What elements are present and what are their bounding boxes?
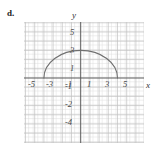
x-tick-label-1: 1: [87, 80, 91, 89]
y-tick-label-3: 3: [70, 46, 74, 55]
y-tick-label-neg4: -4: [65, 118, 72, 127]
x-tick-label-neg3: -3: [46, 80, 53, 89]
y-axis-label: y: [72, 10, 76, 20]
part-label: d.: [7, 8, 14, 18]
x-tick-label-3: 3: [105, 80, 109, 89]
y-tick-label-1: 1: [70, 64, 74, 73]
figure-panel: d.: [0, 0, 161, 153]
y-tick-label-5: 5: [70, 28, 74, 37]
x-tick-label-neg5: -5: [28, 80, 35, 89]
x-axis-label: x: [146, 80, 150, 90]
x-tick-label-5: 5: [123, 80, 127, 89]
plot-area: -5 -3 -1 1 3 5 5 3 1 -1 -2 -4 x y: [24, 22, 144, 143]
y-tick-label-neg1: -1: [65, 82, 72, 91]
y-tick-label-neg2: -2: [65, 100, 72, 109]
